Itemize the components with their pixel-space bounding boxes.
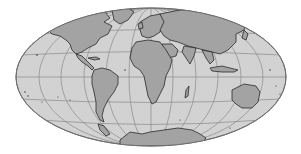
- australia: [232, 84, 260, 108]
- world-map: [0, 0, 301, 154]
